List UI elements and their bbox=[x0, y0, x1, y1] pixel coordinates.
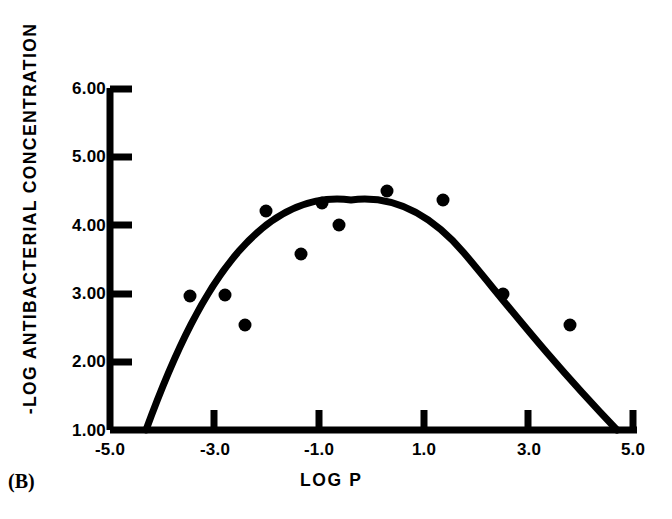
data-point bbox=[260, 205, 273, 218]
data-point bbox=[497, 288, 510, 301]
data-point bbox=[239, 319, 252, 332]
data-point bbox=[437, 194, 450, 207]
data-points bbox=[184, 185, 577, 332]
plot-area bbox=[0, 0, 672, 519]
data-point bbox=[564, 319, 577, 332]
data-point bbox=[219, 289, 232, 302]
data-point bbox=[381, 185, 394, 198]
data-point bbox=[316, 197, 329, 210]
data-point bbox=[295, 248, 308, 261]
data-point bbox=[184, 290, 197, 303]
x-axis-title: LOG P bbox=[300, 470, 362, 491]
figure-panel-b: -LOG ANTIBACTERIAL CONCENTRATION 6.00 5.… bbox=[0, 0, 672, 519]
panel-caption: (B) bbox=[8, 470, 35, 493]
data-point bbox=[333, 219, 346, 232]
fit-curve bbox=[146, 199, 617, 430]
